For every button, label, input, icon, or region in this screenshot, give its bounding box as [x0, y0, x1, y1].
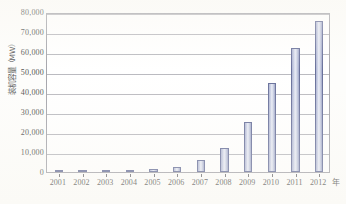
y-axis-tick-label: 70,000 — [4, 29, 44, 37]
bar — [55, 170, 64, 172]
x-axis-tick — [177, 174, 178, 177]
x-axis-tick — [225, 174, 226, 177]
x-axis-tick — [201, 174, 202, 177]
x-axis-unit-label: 年 — [332, 178, 340, 187]
bar — [197, 160, 206, 172]
bar — [268, 83, 277, 172]
x-axis-tick-label: 2001 — [45, 178, 71, 187]
x-axis-tick-labels: 2001200220032004200520062007200820092010… — [46, 178, 330, 192]
bar — [315, 21, 324, 172]
bar-series — [47, 14, 329, 172]
x-axis-tick — [248, 174, 249, 177]
y-axis-tick-labels: 80,00070,00060,00050,00040,00030,00020,0… — [0, 0, 44, 204]
x-axis-tick — [296, 174, 297, 177]
x-axis-tick-label: 2003 — [92, 178, 118, 187]
x-axis-tick-label: 2004 — [116, 178, 142, 187]
y-axis-tick-label: 0 — [4, 169, 44, 177]
y-axis-tick-label: 60,000 — [4, 49, 44, 57]
y-axis-tick-label: 80,000 — [4, 9, 44, 17]
bar — [291, 48, 300, 172]
x-axis-tick — [106, 174, 107, 177]
x-axis-tick-label: 2008 — [211, 178, 237, 187]
chart-screenshot: 装机容量（MW） 80,00070,00060,00050,00040,0003… — [0, 0, 346, 204]
x-axis-tick-label: 2007 — [187, 178, 213, 187]
bar — [126, 170, 135, 172]
bar — [149, 169, 158, 172]
bar — [244, 122, 253, 172]
x-axis-tick — [130, 174, 131, 177]
bar — [220, 148, 229, 172]
y-axis-tick-label: 10,000 — [4, 149, 44, 157]
x-axis-tick — [154, 174, 155, 177]
x-axis-tick — [83, 174, 84, 177]
y-axis-tick-label: 50,000 — [4, 69, 44, 77]
bar — [102, 170, 111, 172]
x-axis-tick — [59, 174, 60, 177]
x-axis-tick — [272, 174, 273, 177]
bar — [78, 170, 87, 172]
x-axis-tick-label: 2002 — [69, 178, 95, 187]
y-axis-tick-label: 30,000 — [4, 109, 44, 117]
x-axis-tick-label: 2005 — [140, 178, 166, 187]
x-axis-tick-label: 2009 — [234, 178, 260, 187]
x-axis-tick-label: 2012 — [305, 178, 331, 187]
y-axis-tick-label: 20,000 — [4, 129, 44, 137]
bar — [173, 167, 182, 172]
y-axis-tick-label: 40,000 — [4, 89, 44, 97]
x-axis-tick-label: 2006 — [163, 178, 189, 187]
plot-area — [46, 13, 330, 173]
x-axis-tick-label: 2011 — [282, 178, 308, 187]
x-axis-tick-label: 2010 — [258, 178, 284, 187]
x-axis-tick — [319, 174, 320, 177]
